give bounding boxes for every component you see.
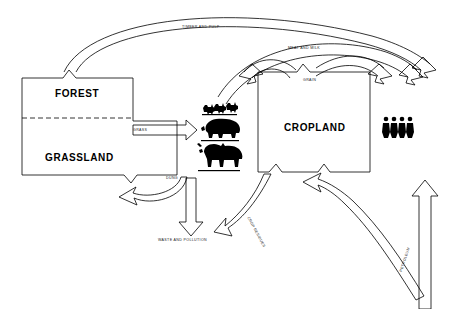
livestock-icon-group <box>197 102 242 171</box>
timber-and-pulp-flow-line-outer <box>64 18 430 72</box>
livestock-to-cropland-arrowhead <box>239 64 263 84</box>
flow-label-timber-and-pulp: TIMBER AND PULP <box>182 25 220 29</box>
pig-icon <box>201 119 240 142</box>
person-icon <box>406 117 414 138</box>
flow-label-waste-and-pollution: WASTE AND POLLUTION <box>158 238 207 242</box>
person-icon <box>382 117 390 138</box>
timber-and-pulp-arrowhead <box>412 57 436 78</box>
node-label-grassland: GRASSLAND <box>45 152 114 163</box>
diagram-canvas: FOREST GRASSLAND CROPLAND TIMBER AND PUL… <box>0 0 462 309</box>
chickens-icon <box>202 102 238 115</box>
petroleum-branch-arrow-outline <box>303 173 424 300</box>
crop-residues-arrow-outline <box>214 174 271 236</box>
node-label-cropland: CROPLAND <box>284 122 345 133</box>
person-icon <box>398 117 406 138</box>
flow-label-grass: GRASS <box>133 128 147 132</box>
grain-arrowhead <box>368 64 392 84</box>
person-icon <box>390 117 398 138</box>
timber-and-pulp-flow-line-inner <box>76 27 421 72</box>
node-label-forest: FOREST <box>55 88 99 99</box>
petroleum-arrow-outline <box>412 180 438 309</box>
forest-grassland-box-outline <box>22 70 177 183</box>
livestock-to-cropland-curve-outer <box>244 60 296 72</box>
people-icon-group <box>382 117 414 138</box>
meat-and-milk-flow-line-outer <box>218 44 417 97</box>
flow-label-meat-and-milk: MEAT AND MILK <box>288 46 320 50</box>
cattle-icon <box>197 143 242 171</box>
grain-flow-line-outer <box>316 56 384 68</box>
flow-label-grain: GRAIN <box>303 78 316 82</box>
flow-label-dung: DUNG <box>166 176 178 180</box>
